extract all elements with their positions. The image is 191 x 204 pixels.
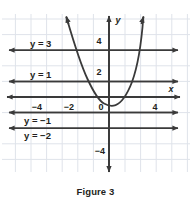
y-tick-label-4: 4 bbox=[96, 36, 101, 46]
figure-caption: Figure 3 bbox=[0, 186, 191, 197]
figure-container: −4 −2 0 4 4 2 −4 x y y = 3 y = 1 y = −1 … bbox=[0, 0, 191, 204]
x-axis-label: x bbox=[167, 84, 174, 94]
label-y-equals-1: y = 1 bbox=[30, 69, 52, 80]
label-y-equals-minus-1: y = −1 bbox=[24, 115, 52, 126]
graph-svg: −4 −2 0 4 4 2 −4 x y y = 3 y = 1 y = −1 … bbox=[0, 0, 191, 186]
y-axis-label: y bbox=[114, 15, 121, 25]
x-tick-label-minus-4: −4 bbox=[32, 102, 42, 112]
x-tick-label-minus-2: −2 bbox=[64, 102, 74, 112]
x-tick-label-4: 4 bbox=[152, 102, 157, 112]
y-tick-label-minus-4: −4 bbox=[95, 146, 105, 156]
coordinate-plane: −4 −2 0 4 4 2 −4 x y y = 3 y = 1 y = −1 … bbox=[0, 0, 191, 186]
y-tick-label-2: 2 bbox=[96, 67, 101, 77]
x-tick-label-0: 0 bbox=[98, 102, 103, 112]
label-y-equals-minus-2: y = −2 bbox=[24, 130, 51, 141]
label-y-equals-3: y = 3 bbox=[30, 38, 51, 49]
